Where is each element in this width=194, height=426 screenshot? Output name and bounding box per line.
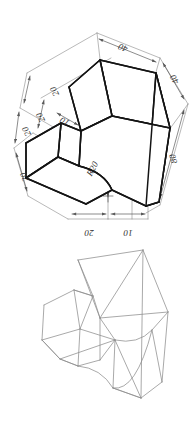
wireframe-isometric-view bbox=[0, 0, 194, 426]
wireframe-edges bbox=[42, 250, 168, 398]
drawing-sheet: 20 20 20 20 10 40 40 80 R20 20 10 bbox=[0, 0, 194, 426]
